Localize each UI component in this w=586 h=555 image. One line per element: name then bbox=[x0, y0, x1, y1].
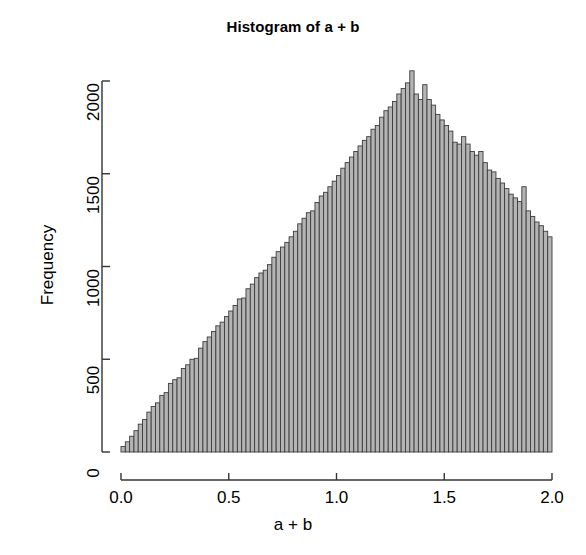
histogram-bar bbox=[160, 395, 164, 452]
x-axis-tick-label: 1.0 bbox=[307, 488, 367, 508]
histogram-bar bbox=[263, 270, 267, 452]
histogram-bar bbox=[216, 326, 220, 452]
histogram-bar bbox=[380, 117, 384, 452]
x-axis-tick-label: 0.5 bbox=[199, 488, 259, 508]
histogram-bar bbox=[492, 172, 496, 452]
histogram-bar bbox=[414, 94, 418, 452]
histogram-bar bbox=[212, 331, 216, 452]
histogram-bar bbox=[470, 151, 474, 452]
histogram-bar bbox=[371, 129, 375, 452]
y-axis-tick-label: 500 bbox=[84, 358, 104, 402]
histogram-bar bbox=[207, 337, 211, 452]
histogram-bar bbox=[449, 131, 453, 452]
histogram-bar bbox=[530, 216, 534, 452]
histogram-bar bbox=[496, 178, 500, 452]
histogram-bar bbox=[384, 111, 388, 452]
histogram-bar bbox=[298, 224, 302, 452]
histogram-bar bbox=[431, 105, 435, 452]
histogram-bar bbox=[349, 157, 353, 452]
histogram-bar bbox=[401, 88, 405, 452]
histogram-bar bbox=[328, 187, 332, 452]
histogram-bar bbox=[418, 100, 422, 452]
histogram-bar bbox=[444, 126, 448, 452]
histogram-bar bbox=[362, 140, 366, 452]
histogram-bar bbox=[268, 265, 272, 452]
histogram-bar bbox=[138, 424, 142, 452]
histogram-bar bbox=[375, 126, 379, 452]
histogram-bar bbox=[121, 446, 125, 452]
histogram-bar bbox=[224, 317, 228, 452]
histogram-bar bbox=[518, 202, 522, 452]
y-axis-tick-label: 0 bbox=[84, 451, 104, 495]
histogram-bar bbox=[168, 383, 172, 452]
histogram-bar bbox=[242, 298, 246, 452]
histogram-bar bbox=[427, 100, 431, 452]
histogram-bar bbox=[388, 107, 392, 452]
histogram-bar bbox=[181, 369, 185, 452]
histogram-bar bbox=[199, 348, 203, 452]
histogram-bar bbox=[341, 168, 345, 452]
histogram-bar bbox=[457, 144, 461, 452]
histogram-bar bbox=[319, 196, 323, 452]
histogram-figure: Histogram of a + b a + b Frequency 0.00.… bbox=[0, 0, 586, 555]
histogram-bar bbox=[143, 420, 147, 452]
histogram-bar bbox=[246, 289, 250, 452]
x-axis-title: a + b bbox=[0, 515, 586, 535]
y-axis-title: Frequency bbox=[38, 217, 58, 313]
histogram-bar bbox=[436, 114, 440, 452]
histogram-bar bbox=[302, 218, 306, 452]
histogram-bar bbox=[315, 203, 319, 453]
histogram-bar bbox=[500, 183, 504, 452]
histogram-bar bbox=[539, 226, 543, 452]
histogram-bar bbox=[522, 187, 526, 452]
histogram-bar bbox=[535, 222, 539, 452]
histogram-bar bbox=[272, 257, 276, 452]
histogram-bar bbox=[190, 359, 194, 452]
histogram-bar bbox=[280, 247, 284, 452]
histogram-bar bbox=[203, 342, 207, 452]
histogram-bar bbox=[487, 170, 491, 452]
histogram-bar bbox=[151, 407, 155, 452]
histogram-bar bbox=[194, 358, 198, 452]
histogram-bar bbox=[285, 242, 289, 452]
histogram-bar bbox=[509, 194, 513, 452]
histogram-bar bbox=[229, 311, 233, 452]
histogram-bar bbox=[474, 155, 478, 452]
histogram-bar bbox=[324, 192, 328, 452]
histogram-bar bbox=[393, 101, 397, 452]
histogram-bar bbox=[259, 273, 263, 452]
histogram-bar bbox=[453, 142, 457, 452]
histogram-bar bbox=[147, 412, 151, 452]
histogram-bar bbox=[130, 436, 134, 452]
histogram-bar bbox=[237, 299, 241, 452]
y-axis-tick-label: 1500 bbox=[84, 173, 104, 217]
histogram-bar bbox=[289, 237, 293, 452]
histogram-bar bbox=[543, 231, 547, 452]
histogram-bar bbox=[354, 151, 358, 452]
histogram-bar bbox=[220, 322, 224, 452]
histogram-bar bbox=[410, 71, 414, 452]
histogram-bar bbox=[177, 378, 181, 452]
histogram-bar bbox=[466, 144, 470, 452]
histogram-bar bbox=[276, 252, 280, 452]
histogram-bar bbox=[405, 83, 409, 452]
histogram-bar bbox=[345, 163, 349, 452]
x-axis-tick-label: 2.0 bbox=[522, 488, 582, 508]
histogram-bar bbox=[367, 137, 371, 452]
histogram-bar bbox=[164, 393, 168, 452]
histogram-bar bbox=[155, 403, 159, 452]
histogram-bar bbox=[483, 163, 487, 452]
histogram-bar bbox=[461, 137, 465, 452]
histogram-bar bbox=[173, 380, 177, 452]
histogram-bar bbox=[526, 211, 530, 452]
histogram-bar bbox=[311, 211, 315, 452]
histogram-bars bbox=[121, 71, 552, 452]
histogram-bar bbox=[397, 94, 401, 452]
histogram-bar bbox=[423, 85, 427, 452]
x-axis-tick-label: 1.5 bbox=[414, 488, 474, 508]
histogram-bar bbox=[505, 189, 509, 452]
histogram-bar bbox=[337, 176, 341, 452]
histogram-bar bbox=[332, 181, 336, 452]
histogram-bar bbox=[255, 278, 259, 452]
y-axis-tick-label: 2000 bbox=[84, 80, 104, 124]
